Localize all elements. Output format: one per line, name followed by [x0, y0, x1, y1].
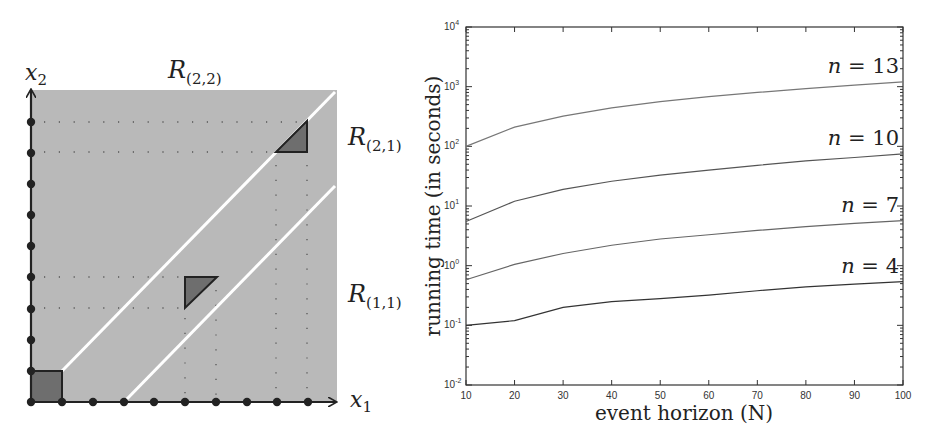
- x-tick-label: 80: [800, 390, 812, 401]
- x-tick-label: 100: [895, 390, 912, 401]
- running-time-chart: n = 13n = 10n = 7n = 4 10203040506070809…: [421, 19, 912, 425]
- origin-square: [31, 371, 62, 402]
- series-line: [466, 154, 903, 222]
- x-tick-label: 30: [558, 390, 570, 401]
- figure-canvas: x2 x1 R(2,2) R(2,1) R(1,1) n = 13n = 10n…: [0, 0, 931, 440]
- x1-axis-label: x1: [350, 387, 372, 416]
- series-line: [466, 282, 903, 326]
- x-tick-label: 90: [849, 390, 861, 401]
- region-label-r21: R(2,1): [347, 123, 402, 155]
- plot-frame: [466, 27, 903, 385]
- series-label: n = 4: [841, 254, 899, 278]
- x2-axis-label: x2: [25, 60, 47, 89]
- y-tick-label: 101: [444, 198, 459, 211]
- axis-ticks: [466, 27, 903, 385]
- y-tick-label: 103: [444, 79, 459, 92]
- x-tick-label: 60: [703, 390, 715, 401]
- series-label: n = 13: [828, 54, 899, 78]
- y-tick-label: 100: [444, 258, 459, 271]
- series-label: n = 7: [841, 193, 899, 217]
- region-label-r22: R(2,2): [167, 56, 222, 88]
- x-tick-label: 20: [509, 390, 521, 401]
- region-diagram: x2 x1 R(2,2) R(2,1) R(1,1): [25, 56, 402, 416]
- x-tick-label: 70: [752, 390, 764, 401]
- y-axis-label: running time (in seconds): [421, 76, 445, 337]
- series-line: [466, 221, 903, 280]
- x-tick-label: 50: [655, 390, 667, 401]
- x-axis-label: event horizon (N): [595, 401, 773, 425]
- y-tick-label: 10-1: [444, 317, 461, 330]
- y-tick-label: 102: [444, 138, 459, 151]
- y-tick-label: 10-2: [444, 377, 461, 390]
- x-tick-label: 10: [460, 390, 472, 401]
- x-tick-label: 40: [606, 390, 618, 401]
- series-label: n = 10: [828, 126, 899, 150]
- region-label-r11: R(1,1): [347, 280, 402, 312]
- y-tick-label: 104: [444, 19, 459, 32]
- series-lines: n = 13n = 10n = 7n = 4: [466, 54, 903, 325]
